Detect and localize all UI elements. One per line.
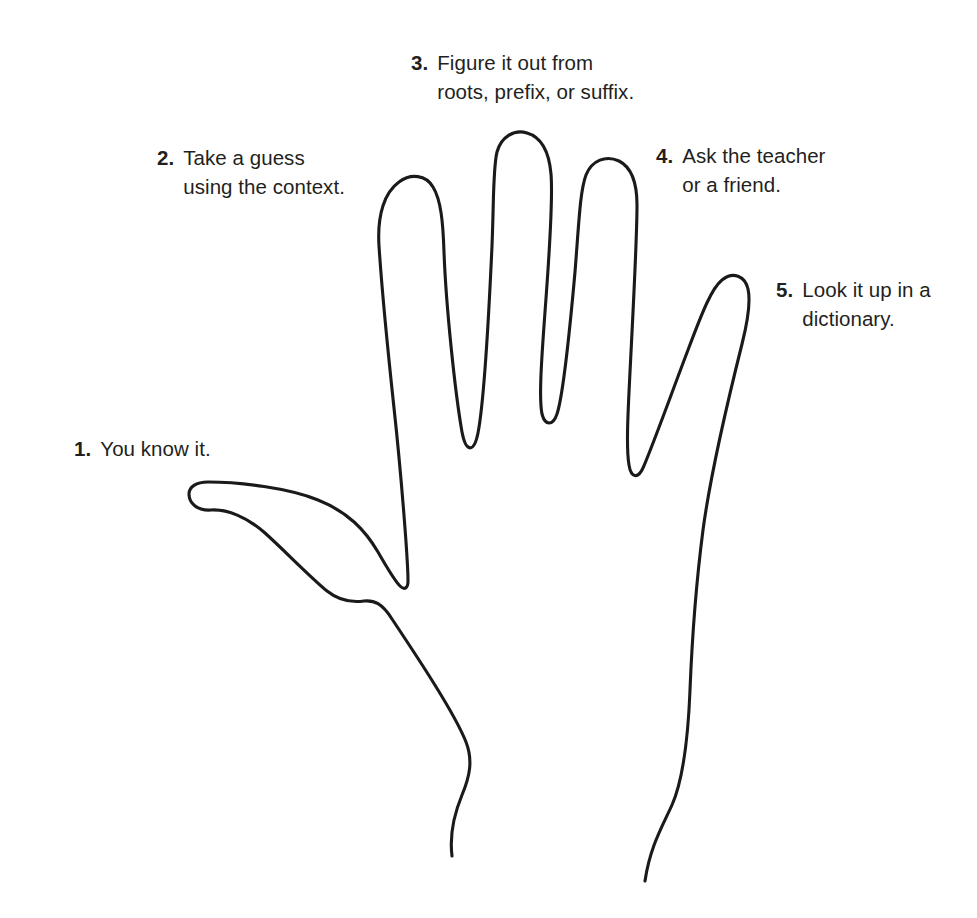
callout-5-look-it-up: 5. Look it up in a dictionary. (776, 275, 931, 333)
callout-4-text: Ask the teacher or a friend. (682, 141, 825, 199)
callout-2-line-2: using the context. (183, 172, 345, 201)
callout-4-line-1: Ask the teacher (682, 141, 825, 170)
callout-4-line-2: or a friend. (682, 170, 825, 199)
callout-4-number: 4. (656, 141, 673, 170)
hand-strategy-diagram: 1. You know it. 2. Take a guess using th… (0, 0, 977, 918)
callout-3-line-2: roots, prefix, or suffix. (437, 77, 634, 106)
callout-2-line-1: Take a guess (183, 143, 345, 172)
callout-2-text: Take a guess using the context. (183, 143, 345, 201)
callout-5-line-1: Look it up in a (802, 275, 930, 304)
callout-3-line-1: Figure it out from (437, 48, 634, 77)
callout-2-take-a-guess: 2. Take a guess using the context. (157, 143, 345, 201)
callout-1-text: You know it. (100, 434, 210, 463)
callout-5-text: Look it up in a dictionary. (802, 275, 930, 333)
callout-3-figure-it-out: 3. Figure it out from roots, prefix, or … (411, 48, 634, 106)
callout-4-ask-the-teacher: 4. Ask the teacher or a friend. (656, 141, 826, 199)
callout-2-number: 2. (157, 143, 174, 172)
callout-5-number: 5. (776, 275, 793, 304)
callout-3-number: 3. (411, 48, 428, 77)
callout-1-line-1: You know it. (100, 434, 210, 463)
callout-1-you-know-it: 1. You know it. (74, 434, 211, 463)
callout-5-line-2: dictionary. (802, 304, 930, 333)
hand-outline-path (189, 132, 749, 881)
callout-1-number: 1. (74, 434, 91, 463)
callout-3-text: Figure it out from roots, prefix, or suf… (437, 48, 634, 106)
